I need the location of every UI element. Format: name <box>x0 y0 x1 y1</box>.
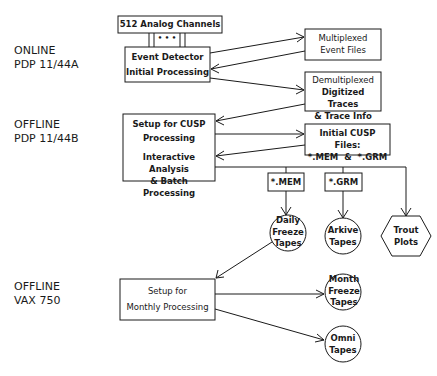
tier-online-machine: PDP 11/44A <box>14 58 78 72</box>
initial-cusp-line2: *.MEM & *.GRM <box>305 151 390 163</box>
trout-line2: Plots <box>386 236 426 248</box>
monthly-setup-label: Setup for Monthly Processing <box>120 285 215 313</box>
daily-freeze-label: Daily Freeze Tapes <box>268 215 308 250</box>
trout-label: Trout Plots <box>386 224 426 248</box>
omni-line1: Omni <box>323 332 363 344</box>
tier-online: ONLINE PDP 11/44A <box>14 44 78 72</box>
channel-ellipsis: • • • <box>154 32 180 44</box>
arkive-line1: Arkive <box>323 224 363 236</box>
month-freeze-line3: Tapes <box>323 297 365 309</box>
month-freeze-line2: Freeze <box>323 286 365 298</box>
cusp-setup-line3: Interactive Analysis <box>123 151 215 175</box>
demultiplexed-label: Demultiplexed Digitized Traces & Trace I… <box>305 74 381 122</box>
omni-label: Omni Tapes <box>323 332 363 356</box>
grm-file-label: *.GRM <box>325 176 362 188</box>
month-freeze-label: Month Freeze Tapes <box>323 274 365 309</box>
monthly-setup-line2: Monthly Processing <box>120 301 215 313</box>
daily-freeze-line1: Daily <box>268 215 308 227</box>
tier-offline-pdp: OFFLINE PDP 11/44B <box>14 118 78 146</box>
multiplexed-line1: Multiplexed <box>305 32 381 44</box>
monthly-setup-line1: Setup for <box>120 285 215 297</box>
demultiplexed-line1: Demultiplexed <box>305 74 381 86</box>
demultiplexed-line3: & Trace Info <box>305 110 381 122</box>
cusp-setup-label: Setup for CUSP Processing Interactive An… <box>123 118 215 199</box>
tier-offline-vax-machine: VAX 750 <box>14 294 60 308</box>
arkive-label: Arkive Tapes <box>323 224 363 248</box>
demultiplexed-line2: Digitized Traces <box>305 86 381 110</box>
analog-channels-label: 512 Analog Channels <box>118 18 222 30</box>
month-freeze-line1: Month <box>323 274 365 286</box>
mem-file-label: *.MEM <box>268 176 304 188</box>
event-detector-line2: Initial Processing <box>125 66 210 78</box>
event-detector-label: Event Detector Initial Processing <box>125 51 210 78</box>
tier-offline-vax: OFFLINE VAX 750 <box>14 280 60 308</box>
tier-offline-pdp-machine: PDP 11/44B <box>14 132 78 146</box>
daily-freeze-line3: Tapes <box>268 238 308 250</box>
cusp-setup-line2: Processing <box>123 132 215 144</box>
tier-online-name: ONLINE <box>14 44 78 58</box>
trout-line1: Trout <box>386 224 426 236</box>
tier-offline-pdp-name: OFFLINE <box>14 118 78 132</box>
cusp-setup-line1: Setup for CUSP <box>123 118 215 130</box>
initial-cusp-files-label: Initial CUSP Files: *.MEM & *.GRM <box>305 127 390 163</box>
multiplexed-files-label: Multiplexed Event Files <box>305 32 381 56</box>
omni-line2: Tapes <box>323 344 363 356</box>
arkive-line2: Tapes <box>323 236 363 248</box>
cusp-setup-line4: & Batch Processing <box>123 175 215 199</box>
initial-cusp-line1: Initial CUSP Files: <box>305 127 390 151</box>
multiplexed-line2: Event Files <box>305 44 381 56</box>
event-detector-line1: Event Detector <box>125 51 210 63</box>
tier-offline-vax-name: OFFLINE <box>14 280 60 294</box>
daily-freeze-line2: Freeze <box>268 227 308 239</box>
